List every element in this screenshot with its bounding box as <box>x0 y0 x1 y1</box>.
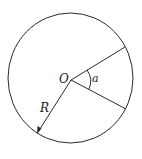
radius-label: R <box>39 101 49 115</box>
angle-arc <box>87 70 91 89</box>
angle-label: a <box>92 72 99 85</box>
circle-outline <box>8 13 133 143</box>
circle-diagram: O a R <box>0 0 142 159</box>
center-label: O <box>59 72 69 86</box>
